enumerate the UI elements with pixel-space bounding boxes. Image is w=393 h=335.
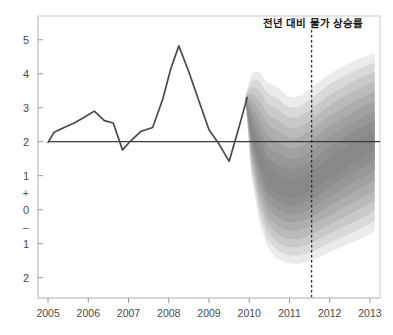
y-tick-label: 0 bbox=[23, 204, 29, 216]
x-tick-label: 2009 bbox=[197, 307, 221, 319]
x-tick-label: 2008 bbox=[157, 307, 181, 319]
y-sign-marker: – bbox=[23, 221, 30, 233]
y-tick-label: 4 bbox=[23, 68, 29, 80]
y-sign-marker: + bbox=[23, 187, 29, 199]
x-axis: 200520062007200820092010201120122013 bbox=[36, 298, 381, 319]
x-tick-label: 2005 bbox=[36, 307, 60, 319]
y-tick-label: 3 bbox=[23, 102, 29, 114]
y-tick-label: 5 bbox=[23, 34, 29, 46]
chart-title: 전년 대비 물가 상승률 bbox=[263, 17, 364, 29]
x-tick-label: 2012 bbox=[318, 307, 342, 319]
x-tick-label: 2011 bbox=[278, 307, 301, 319]
x-tick-label: 2013 bbox=[358, 307, 382, 319]
y-tick-label: 2 bbox=[23, 136, 29, 148]
x-tick-label: 2007 bbox=[117, 307, 141, 319]
y-tick-label: 2 bbox=[23, 272, 29, 284]
x-tick-label: 2010 bbox=[238, 307, 262, 319]
x-tick-label: 2006 bbox=[77, 307, 101, 319]
y-tick-label: 1 bbox=[23, 170, 29, 182]
y-tick-label: 1 bbox=[23, 238, 29, 250]
inflation-fan-chart: 54321+0–12 20052006200720082009201020112… bbox=[0, 0, 393, 335]
chart-canvas: 54321+0–12 20052006200720082009201020112… bbox=[0, 0, 393, 335]
